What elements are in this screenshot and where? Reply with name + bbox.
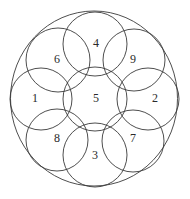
circle-label-1: 1 bbox=[32, 92, 38, 104]
circle-label-4: 4 bbox=[93, 37, 99, 49]
circle-label-6: 6 bbox=[54, 53, 60, 65]
circle-label-8: 8 bbox=[54, 132, 60, 144]
circle-label-7: 7 bbox=[130, 132, 136, 144]
circle-label-2: 2 bbox=[152, 92, 158, 104]
circle-label-9: 9 bbox=[130, 53, 136, 65]
circle-label-3: 3 bbox=[92, 149, 98, 161]
circle-2 bbox=[117, 68, 179, 130]
circle-label-5: 5 bbox=[93, 92, 99, 104]
